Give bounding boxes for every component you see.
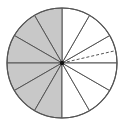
fraction-circle	[0, 0, 126, 121]
diagram-canvas	[0, 0, 126, 121]
center-point	[60, 61, 64, 65]
